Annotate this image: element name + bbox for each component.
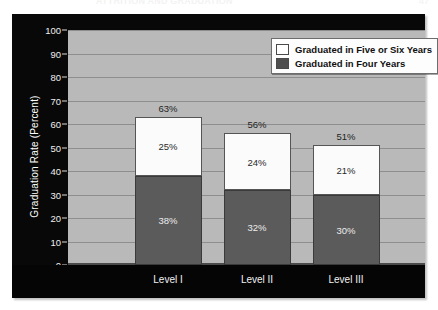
x-tick-label: Level I [118, 274, 218, 285]
bar-segment-label-four-years: 32% [225, 222, 290, 233]
bar-total-label: 51% [313, 131, 380, 142]
bar-segment-four-years: 38% [135, 176, 202, 265]
y-tick-mark [62, 218, 67, 219]
legend-swatch-icon-four-years [276, 58, 289, 69]
bar-segment-four-years: 32% [224, 190, 291, 265]
y-tick-mark [62, 124, 67, 125]
y-tick-mark [62, 171, 67, 172]
legend-label-four-years: Graduated in Four Years [295, 58, 405, 69]
y-tick-label: 90 [50, 48, 61, 59]
bar-segment-label-five-or-six-years: 21% [314, 165, 379, 176]
stacked-bar: 30%21% [313, 145, 380, 265]
bar-segment-label-five-or-six-years: 25% [136, 141, 201, 152]
bar-segment-label-four-years: 30% [314, 225, 379, 236]
y-tick-label: 60 [50, 119, 61, 130]
y-tick-mark [62, 147, 67, 148]
y-tick-label: 40 [50, 166, 61, 177]
y-tick-label: 30 [50, 189, 61, 200]
stacked-bar: 38%25% [135, 117, 202, 265]
chart-figure-panel: Graduation Rate (Percent) 01020304050607… [12, 14, 425, 298]
stacked-bar: 32%24% [224, 133, 291, 265]
y-tick-label: 50 [50, 142, 61, 153]
x-tick-label: Level III [296, 274, 396, 285]
y-tick-label: 20 [50, 213, 61, 224]
bar-total-label: 56% [224, 119, 291, 130]
gridline [68, 101, 425, 102]
legend-swatch-icon-five-or-six [276, 44, 289, 55]
x-axis-band: Level ILevel IILevel III [12, 265, 425, 298]
y-tick-mark [62, 77, 67, 78]
x-tick-label: Level II [207, 274, 307, 285]
y-axis-title: Graduation Rate (Percent) [26, 28, 42, 284]
y-tick-mark [62, 53, 67, 54]
gridline [68, 30, 425, 31]
y-tick-mark [62, 30, 67, 31]
chart-legend: Graduated in Five or Six Years Graduated… [271, 38, 438, 74]
y-axis-title-text: Graduation Rate (Percent) [29, 95, 40, 217]
gridline [68, 77, 425, 78]
y-tick-label: 70 [50, 95, 61, 106]
bar-segment-four-years: 30% [313, 195, 380, 266]
y-tick-mark [62, 194, 67, 195]
y-tick-mark [62, 100, 67, 101]
bar-segment-five-or-six-years: 24% [224, 133, 291, 189]
bar-segment-label-four-years: 38% [136, 215, 201, 226]
legend-label-five-or-six: Graduated in Five or Six Years [295, 44, 432, 55]
bar-segment-five-or-six-years: 25% [135, 117, 202, 176]
page-running-header: ATTRITION AND GRADUATION 47 [0, 0, 437, 12]
y-tick-label: 100 [45, 25, 61, 36]
y-tick-label: 10 [50, 236, 61, 247]
legend-item-five-or-six: Graduated in Five or Six Years [276, 42, 432, 56]
legend-item-four-years: Graduated in Four Years [276, 56, 432, 70]
y-tick-mark [62, 241, 67, 242]
bar-segment-five-or-six-years: 21% [313, 145, 380, 194]
page-number: 47 [419, 0, 429, 6]
bar-total-label: 63% [135, 103, 202, 114]
y-tick-label: 80 [50, 72, 61, 83]
bar-segment-label-five-or-six-years: 24% [225, 157, 290, 168]
running-head-text: ATTRITION AND GRADUATION [96, 0, 233, 6]
